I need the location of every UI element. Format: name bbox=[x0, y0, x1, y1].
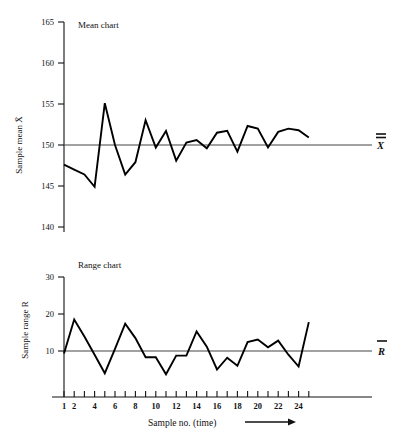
svg-text:R: R bbox=[377, 346, 385, 357]
mean-ytick-140: 140 bbox=[41, 222, 54, 232]
xtick-10: 10 bbox=[152, 401, 161, 411]
mean-ytick-165: 165 bbox=[41, 17, 54, 27]
range-chart-y-ticks bbox=[58, 277, 64, 351]
mean-chart-title: Mean chart bbox=[78, 20, 119, 30]
xtick-1: 1 bbox=[62, 401, 66, 411]
x-axis-caption: Sample no. (time) bbox=[148, 418, 216, 429]
range-chart-y-axis-title: Sample range R bbox=[20, 301, 30, 359]
right-arrow-icon bbox=[245, 419, 296, 426]
xtick-18: 18 bbox=[233, 401, 242, 411]
xtick-8: 8 bbox=[133, 401, 137, 411]
xtick-24: 24 bbox=[294, 401, 303, 411]
mean-chart-y-axis-title: Sample mean X̄ bbox=[14, 116, 24, 174]
range-chart-data-line bbox=[64, 320, 309, 375]
mean-chart-y-ticks bbox=[58, 22, 64, 227]
svg-text:X: X bbox=[376, 140, 385, 151]
range-chart-x-tick-labels: 1 2 4 6 8 10 12 14 16 18 20 22 24 bbox=[62, 401, 304, 411]
mean-chart: 165 160 155 150 145 140 Sample mean X̄ M… bbox=[14, 17, 386, 232]
mean-ytick-155: 155 bbox=[41, 99, 54, 109]
control-chart-figure: 165 160 155 150 145 140 Sample mean X̄ M… bbox=[0, 0, 419, 438]
xtick-22: 22 bbox=[274, 401, 283, 411]
xtick-20: 20 bbox=[254, 401, 263, 411]
range-chart-title: Range chart bbox=[78, 260, 122, 270]
mean-chart-center-line-label: X bbox=[376, 134, 386, 151]
xtick-6: 6 bbox=[113, 401, 117, 411]
xtick-2: 2 bbox=[72, 401, 76, 411]
range-chart-x-ticks bbox=[64, 391, 309, 397]
range-ytick-10: 10 bbox=[46, 346, 55, 356]
xtick-16: 16 bbox=[213, 401, 222, 411]
range-ytick-20: 20 bbox=[46, 309, 55, 319]
range-ytick-30: 30 bbox=[46, 272, 55, 282]
mean-ytick-160: 160 bbox=[41, 58, 54, 68]
x-axis-caption-group: Sample no. (time) bbox=[148, 418, 296, 429]
xtick-4: 4 bbox=[92, 401, 97, 411]
mean-ytick-150: 150 bbox=[41, 140, 54, 150]
chart-svg: 165 160 155 150 145 140 Sample mean X̄ M… bbox=[0, 0, 419, 438]
mean-ytick-145: 145 bbox=[41, 181, 54, 191]
range-chart-center-line-label: R bbox=[377, 341, 387, 357]
xtick-14: 14 bbox=[192, 401, 201, 411]
range-chart: 30 20 10 Sample range R Range chart R bbox=[20, 260, 387, 411]
xtick-12: 12 bbox=[172, 401, 181, 411]
